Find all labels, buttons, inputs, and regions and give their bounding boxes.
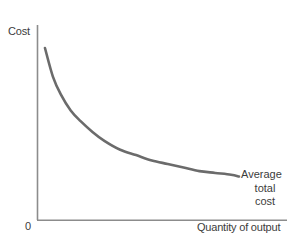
- curve-annotation-line-1: Average: [241, 168, 293, 182]
- curve-annotation: Average total cost: [241, 168, 293, 209]
- curve-annotation-line-3: cost: [241, 195, 293, 209]
- x-axis-title: Quantity of output: [197, 222, 280, 234]
- origin-label: 0: [25, 221, 31, 233]
- average-total-cost-chart: Cost Quantity of output 0 Average total …: [0, 0, 297, 245]
- average-total-cost-curve: [45, 48, 239, 177]
- curve-annotation-line-2: total: [241, 182, 293, 196]
- y-axis-title: Cost: [8, 26, 30, 38]
